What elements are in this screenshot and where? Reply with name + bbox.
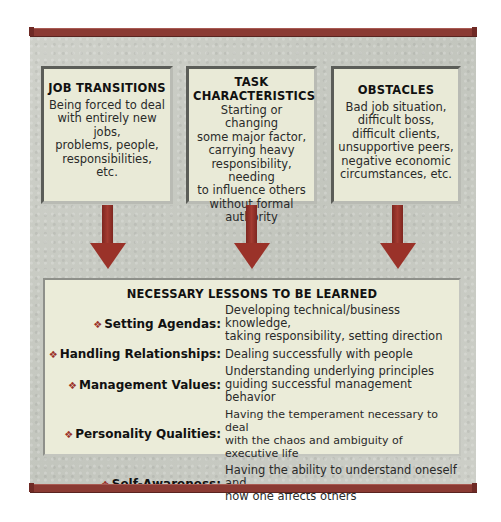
obstacles-title: OBSTACLES xyxy=(338,83,454,97)
def-line: Developing technical/business knowledge, xyxy=(225,303,400,330)
term-label: Handling Relationships: xyxy=(60,347,221,361)
bottom-right-cap xyxy=(472,483,477,492)
top-right-cap xyxy=(472,27,477,36)
diamond-bullet-icon: ❖ xyxy=(68,380,77,391)
text-line: problems, people, xyxy=(55,138,159,152)
top-border-bar xyxy=(30,28,477,37)
lesson-item: ❖Management Values: Understanding underl… xyxy=(45,365,459,404)
down-arrow-icon xyxy=(234,205,270,269)
lesson-term: ❖Setting Agendas: xyxy=(45,317,225,331)
lesson-item: ❖Personality Qualities: Having the tempe… xyxy=(45,408,459,460)
diamond-bullet-icon: ❖ xyxy=(49,349,58,360)
diamond-bullet-icon: ❖ xyxy=(93,319,102,330)
job-transitions-box: JOB TRANSITIONS Being forced to deal wit… xyxy=(41,66,173,204)
text-line: responsibilities, xyxy=(62,152,152,166)
task-characteristics-box: TASK CHARACTERISTICS Starting or changin… xyxy=(186,66,317,204)
text-line: unsupportive peers, xyxy=(338,140,453,154)
text-line: difficult boss, xyxy=(358,113,435,127)
title-line: CHARACTERISTICS xyxy=(193,89,315,103)
def-line: Understanding underlying principles xyxy=(225,364,434,378)
lesson-definition: Understanding underlying principlesguidi… xyxy=(225,365,459,404)
lesson-term: ❖Personality Qualities: xyxy=(45,427,225,441)
lesson-item: ❖Handling Relationships: Dealing success… xyxy=(39,347,459,361)
text-line: some major factor, xyxy=(197,130,306,144)
text-line: Starting or changing xyxy=(221,103,282,130)
lesson-definition: Having the temperament necessary to deal… xyxy=(225,408,459,460)
job-transitions-text: Being forced to deal with entirely new j… xyxy=(48,99,166,179)
title-line: TASK xyxy=(235,75,269,89)
lesson-item: ❖Setting Agendas: Developing technical/b… xyxy=(45,304,459,343)
task-characteristics-title: TASK CHARACTERISTICS xyxy=(193,75,310,103)
text-line: difficult clients, xyxy=(352,127,440,141)
def-line: guiding successful management behavior xyxy=(225,377,412,404)
def-line: with the chaos and ambiguity of executiv… xyxy=(225,434,403,460)
term-label: Personality Qualities: xyxy=(75,427,221,441)
text-line: Bad job situation, xyxy=(346,100,447,114)
lesson-definition: Dealing successfully with people xyxy=(225,348,459,361)
necessary-lessons-box: NECESSARY LESSONS TO BE LEARNED ❖Setting… xyxy=(43,278,461,456)
text-line: negative economic xyxy=(341,154,450,168)
job-transitions-title: JOB TRANSITIONS xyxy=(48,81,166,95)
text-line: Being forced to deal xyxy=(49,98,165,112)
text-line: etc. xyxy=(96,165,118,179)
def-line: Having the temperament necessary to deal xyxy=(225,408,438,434)
text-line: with entirely new jobs, xyxy=(57,111,156,138)
def-line: Dealing successfully with people xyxy=(225,347,413,361)
lesson-term: ❖Management Values: xyxy=(45,378,225,392)
obstacles-text: Bad job situation, difficult boss, diffi… xyxy=(338,101,454,181)
text-line: to influence others xyxy=(197,183,305,197)
text-line: responsibility, needing xyxy=(211,157,291,184)
lesson-term: ❖Handling Relationships: xyxy=(39,347,225,361)
term-label: Setting Agendas: xyxy=(104,317,221,331)
text-line: carrying heavy xyxy=(209,143,295,157)
def-line: taking responsibility, setting direction xyxy=(225,329,442,343)
down-arrow-icon xyxy=(90,205,126,269)
obstacles-box: OBSTACLES Bad job situation, difficult b… xyxy=(331,66,461,204)
diamond-bullet-icon: ❖ xyxy=(64,429,73,440)
term-label: Management Values: xyxy=(79,378,221,392)
top-left-cap xyxy=(29,27,34,36)
text-line: circumstances, etc. xyxy=(340,167,452,181)
lesson-definition: Developing technical/business knowledge,… xyxy=(225,304,459,343)
down-arrow-icon xyxy=(380,205,416,269)
lessons-title: NECESSARY LESSONS TO BE LEARNED xyxy=(45,287,459,301)
bottom-border-bar xyxy=(30,484,477,493)
bottom-left-cap xyxy=(29,483,34,492)
